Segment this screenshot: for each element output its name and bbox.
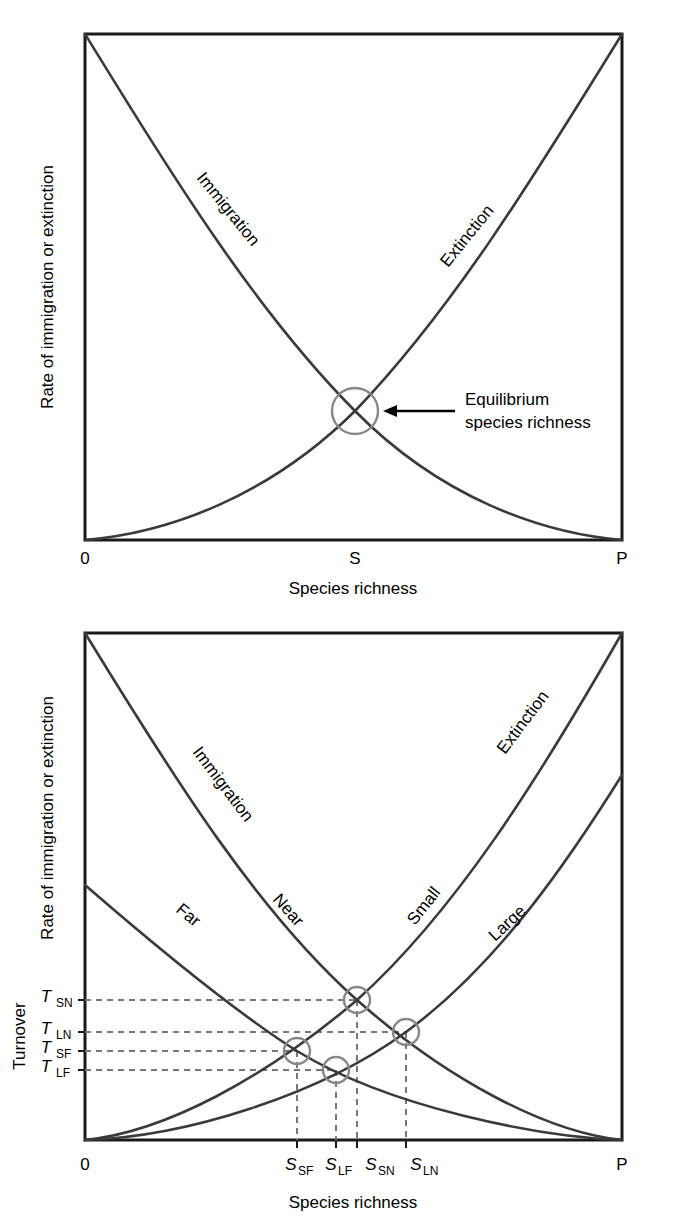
immigration-curve-label: Immigration xyxy=(193,169,264,250)
richness-symbol-ssf: S xyxy=(285,1155,297,1174)
richness-subscript-sln: LN xyxy=(423,1164,438,1178)
turnover-symbol-tsf: T xyxy=(41,1038,53,1057)
x-axis-label: Species richness xyxy=(289,1193,418,1212)
turnover-subscript-tln: LN xyxy=(56,1028,71,1042)
x-tick-s: S xyxy=(349,549,360,568)
y-axis-label-turnover: Turnover xyxy=(10,1002,29,1070)
richness-subscript-ssf: SF xyxy=(298,1164,313,1178)
extinction-curve xyxy=(85,34,622,540)
turnover-symbol-tlf: T xyxy=(41,1057,53,1076)
large-curve-label: Large xyxy=(485,901,530,945)
richness-tick-label-slf: S LF xyxy=(325,1155,352,1178)
equilibrium-annotation-line1: Equilibrium xyxy=(465,390,549,409)
panel-equilibrium-species-richness: Equilibrium species richness Immigration… xyxy=(0,0,673,600)
top-panel-svg: Equilibrium species richness Immigration… xyxy=(0,0,673,600)
turnover-symbol-tln: T xyxy=(41,1019,53,1038)
x-tick-p: P xyxy=(616,1155,627,1174)
large-extinction-curve xyxy=(85,775,622,1140)
richness-symbol-ssn: S xyxy=(365,1155,377,1174)
extinction-curve-label: Extinction xyxy=(493,687,553,757)
x-tick-0: 0 xyxy=(80,1155,89,1174)
richness-subscript-slf: LF xyxy=(338,1164,352,1178)
richness-symbol-slf: S xyxy=(325,1155,337,1174)
equilibrium-arrow-head xyxy=(383,405,397,417)
turnover-subscript-tlf: LF xyxy=(56,1066,70,1080)
turnover-subscript-tsn: SN xyxy=(56,996,73,1010)
richness-tick-label-ssf: S SF xyxy=(285,1155,313,1178)
richness-symbol-sln: S xyxy=(410,1155,422,1174)
panel-island-size-distance: Immigration Extinction Near Far Small La… xyxy=(0,600,673,1228)
richness-tick-label-ssn: S SN xyxy=(365,1155,394,1178)
bottom-panel-svg: Immigration Extinction Near Far Small La… xyxy=(0,600,673,1228)
y-axis-label: Rate of immigration or extinction xyxy=(38,696,57,940)
turnover-subscript-tsf: SF xyxy=(56,1047,71,1061)
richness-subscript-ssn: SN xyxy=(378,1164,395,1178)
x-axis-label: Species richness xyxy=(289,579,418,598)
y-axis-label: Rate of immigration or extinction xyxy=(38,165,57,409)
near-curve-label: Near xyxy=(269,890,308,930)
extinction-curve-label: Extinction xyxy=(436,201,497,270)
equilibrium-annotation-line2: species richness xyxy=(465,413,591,432)
turnover-tick-label-tsn: T SN xyxy=(41,987,73,1010)
immigration-curve xyxy=(85,34,622,540)
richness-tick-label-sln: S LN xyxy=(410,1155,438,1178)
x-tick-0: 0 xyxy=(80,549,89,568)
figure-container: Equilibrium species richness Immigration… xyxy=(0,0,673,1228)
plot-frame xyxy=(85,34,622,540)
small-curve-label: Small xyxy=(403,883,444,928)
x-tick-p: P xyxy=(616,549,627,568)
far-curve-label: Far xyxy=(172,900,204,931)
turnover-symbol-tsn: T xyxy=(41,987,53,1006)
